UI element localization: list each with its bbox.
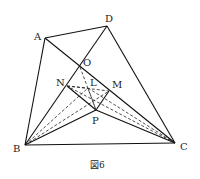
dashed-segment-NL bbox=[67, 86, 88, 88]
point-label-B: B bbox=[13, 143, 20, 154]
segment-AD bbox=[45, 26, 107, 38]
point-label-D: D bbox=[105, 13, 113, 24]
point-label-N: N bbox=[56, 77, 65, 88]
point-label-P: P bbox=[92, 115, 99, 126]
dashed-segment-CL bbox=[88, 88, 175, 143]
geometry-figure: ADBCONMPL 図6 bbox=[0, 0, 200, 179]
point-label-M: M bbox=[112, 79, 122, 90]
segment-AB bbox=[25, 38, 45, 145]
point-label-O: O bbox=[83, 57, 91, 68]
point-label-L: L bbox=[90, 77, 97, 88]
segment-BC bbox=[25, 143, 175, 145]
segment-BP bbox=[25, 110, 96, 145]
segment-PC bbox=[96, 110, 175, 143]
point-label-C: C bbox=[180, 141, 188, 152]
point-label-A: A bbox=[33, 31, 42, 42]
figure-caption: 図6 bbox=[90, 160, 105, 170]
solid-lines bbox=[25, 26, 175, 145]
segment-AC bbox=[45, 38, 175, 143]
